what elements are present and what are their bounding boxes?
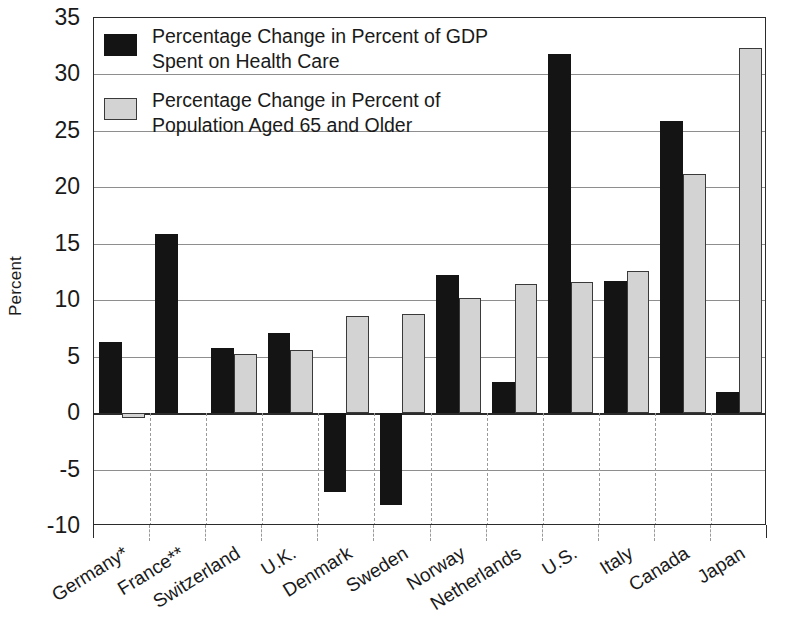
category-separator <box>374 413 375 525</box>
chart-legend: Percentage Change in Percent of GDP Spen… <box>104 24 534 152</box>
y-tick-label: 30 <box>54 62 80 85</box>
legend-item: Percentage Change in Percent of GDP Spen… <box>104 24 534 74</box>
bar-health-gdp <box>268 333 291 413</box>
legend-swatch-dark <box>104 34 137 56</box>
legend-swatch-light <box>104 98 137 120</box>
category-separator <box>655 413 656 525</box>
bar-pop-65plus <box>402 314 425 413</box>
bar-pop-65plus <box>290 350 313 413</box>
y-tick-label: 25 <box>54 118 80 141</box>
category-separator <box>262 413 263 525</box>
bar-pop-65plus <box>571 282 594 413</box>
bar-health-gdp <box>660 121 683 413</box>
y-tick-label: 0 <box>67 401 80 424</box>
y-tick-label: -5 <box>60 457 80 480</box>
category-separator <box>150 413 151 525</box>
category-separator <box>487 413 488 525</box>
bar-pop-65plus <box>739 48 762 413</box>
category-separator <box>431 413 432 525</box>
bar-pop-65plus <box>515 284 538 413</box>
legend-label: Percentage Change in Percent of GDP Spen… <box>152 24 522 74</box>
y-tick-label: 10 <box>54 288 80 311</box>
category-separator <box>543 413 544 525</box>
category-separator <box>711 413 712 525</box>
bar-health-gdp <box>548 54 571 413</box>
bar-pop-65plus <box>683 174 706 413</box>
bar-health-gdp <box>716 392 739 413</box>
category-separator <box>206 413 207 525</box>
bar-health-gdp <box>604 281 627 413</box>
bar-pop-65plus <box>627 271 650 413</box>
zero-axis-line <box>94 413 765 414</box>
y-tick-label: 5 <box>67 344 80 367</box>
bar-chart: Percent 35302520151050-5-10 Germany*Fran… <box>0 0 790 634</box>
y-tick-label: 20 <box>54 175 80 198</box>
category-separator <box>599 413 600 525</box>
bar-health-gdp <box>155 234 178 413</box>
bar-health-gdp <box>99 342 122 413</box>
bar-pop-65plus <box>122 413 145 418</box>
bar-pop-65plus <box>346 316 369 413</box>
bar-pop-65plus <box>234 354 257 413</box>
bar-health-gdp <box>211 348 234 413</box>
x-axis-category-labels: Germany*France**SwitzerlandU.K.DenmarkSw… <box>0 525 790 634</box>
legend-label: Percentage Change in Percent of Populati… <box>152 88 522 138</box>
y-tick-label: 15 <box>54 231 80 254</box>
bar-health-gdp <box>324 413 347 492</box>
gridline <box>94 470 765 471</box>
bar-health-gdp <box>436 275 459 413</box>
legend-item: Percentage Change in Percent of Populati… <box>104 88 534 138</box>
y-tick-label: 35 <box>54 6 80 29</box>
bar-health-gdp <box>492 382 515 414</box>
bar-pop-65plus <box>459 298 482 413</box>
category-separator <box>318 413 319 525</box>
bar-health-gdp <box>380 413 403 504</box>
